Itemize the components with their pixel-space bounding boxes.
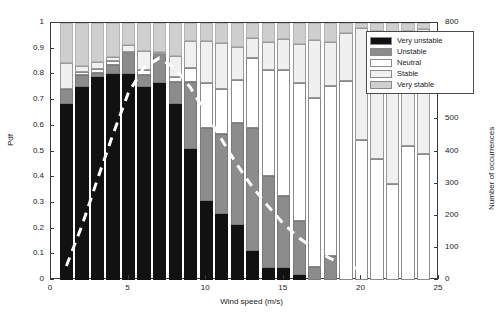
bar-segment [122,23,135,45]
y2-axis-label: Number of occurrences [487,127,496,210]
y-tick-mark [50,22,54,23]
bar-segment [401,146,414,280]
bar [153,23,166,278]
y-tick-label: 0.7 [22,94,44,103]
bar-segment [324,256,337,280]
bar-segment [169,23,182,56]
bar-segment [308,98,321,268]
legend-swatch [370,48,392,56]
bar-segment [137,87,150,280]
bar-segment [75,66,88,72]
bar-segment [200,83,213,128]
x-tick-label: 0 [40,283,60,292]
bar-segment [246,251,259,280]
bar [60,23,73,278]
bar-segment [75,23,88,66]
x-tick-mark [283,275,284,279]
bar [122,23,135,278]
bar-segment [153,83,166,280]
y2-tick-mark [434,247,438,248]
bar-segment [262,42,275,70]
bar-segment [293,44,306,83]
bar [91,23,104,278]
x-tick-label: 10 [195,283,215,292]
bar-segment [370,159,383,280]
bar-segment [153,54,166,83]
bar-segment [60,89,73,104]
x-tick-mark [438,275,439,279]
legend-item: Very unstable [370,35,469,46]
bar-segment [153,23,166,52]
bar-segment [75,87,88,280]
figure: 00.10.20.30.40.50.60.70.80.91 0100200300… [0,0,503,321]
bar-segment [262,23,275,42]
y-tick-mark [50,176,54,177]
legend-item: Unstable [370,46,469,57]
bar-segment [370,23,383,31]
bar-segment [106,65,119,74]
bar-segment [200,128,213,201]
bar-segment [324,86,337,256]
bar-segment [91,62,104,69]
y2-tick-mark [434,183,438,184]
y2-tick-mark [434,279,438,280]
bar [106,23,119,278]
bar-segment [184,149,197,280]
y-tick-mark [50,48,54,49]
bar-segment [293,83,306,221]
legend-swatch [370,81,392,89]
y2-tick-label: 800 [445,17,458,26]
bar [231,23,244,278]
bar-segment [324,42,337,86]
bar-segment [401,23,414,31]
bar-segment [122,52,135,54]
y2-tick-mark [434,22,438,23]
legend-label: Neutral [397,59,421,67]
y-tick-mark [50,99,54,100]
bar-segment [91,73,104,77]
y-tick-label: 0.1 [22,248,44,257]
y2-tick-label: 400 [445,146,458,155]
bar-segment [215,134,228,215]
bar-segment [137,70,150,75]
bar-segment [153,54,166,56]
bar-segment [246,38,259,58]
bar-segment [184,41,197,68]
y-tick-label: 0 [22,274,44,283]
bar-segment [169,56,182,78]
y2-tick-label: 300 [445,178,458,187]
bar-segment [308,267,321,280]
x-tick-label: 25 [428,283,448,292]
bar [293,23,306,278]
bar [137,23,150,278]
y-tick-mark [50,253,54,254]
bar-segment [122,45,135,51]
bar [184,23,197,278]
x-axis-label: Wind speed (m/s) [0,297,503,306]
x-tick-label: 20 [350,283,370,292]
bar-segment [106,61,119,64]
bar-segment [106,23,119,57]
bar-segment [308,23,321,40]
y-tick-mark [50,279,54,280]
bar-segment [122,74,135,280]
bar-segment [246,23,259,38]
y-tick-label: 0.3 [22,197,44,206]
bar-segment [277,70,290,196]
bar-segment [200,41,213,83]
bar-segment [184,68,197,82]
legend-label: Very stable [397,81,434,89]
bar-segment [169,77,182,82]
legend-swatch [370,70,392,78]
bar-segment [231,225,244,280]
y-tick-label: 0.2 [22,223,44,232]
bar-segment [215,23,228,43]
bar-segment [262,268,275,280]
y2-tick-label: 100 [445,242,458,251]
bar-segment [308,40,321,98]
bar-segment [417,23,430,29]
y2-tick-label: 500 [445,113,458,122]
bar [277,23,290,278]
bar-segment [231,47,244,80]
bar-segment [262,70,275,176]
